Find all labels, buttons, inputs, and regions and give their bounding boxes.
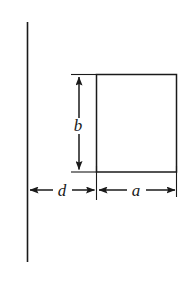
height-dimension-label: b	[74, 116, 83, 135]
width-dimension-label: a	[132, 181, 141, 200]
rectangle-shape	[97, 75, 177, 173]
geometry-diagram: b d a	[0, 0, 191, 282]
gap-dimension-label: d	[58, 181, 67, 200]
figure-container: b d a	[0, 0, 191, 282]
